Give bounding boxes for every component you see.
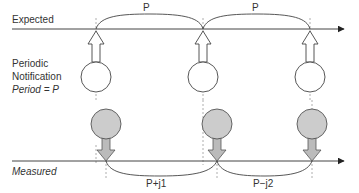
notification-up-arrows <box>88 31 318 62</box>
open-circle-icon <box>188 62 218 92</box>
open-circle-icon <box>295 62 325 92</box>
period-label-top-1: P <box>143 2 150 14</box>
filled-circle-icon <box>91 109 121 139</box>
notification-label-line2: Notification <box>12 71 61 83</box>
filled-circle-icon <box>297 109 327 139</box>
down-arrow-icon <box>208 138 226 161</box>
up-arrow-icon <box>195 31 211 62</box>
period-arc-bottom-2 <box>217 161 312 176</box>
up-arrow-icon <box>302 31 318 62</box>
open-circle-icon <box>81 62 111 92</box>
expected-notifications <box>81 62 325 92</box>
measured-down-arrows <box>97 138 321 161</box>
period-label-bottom-1: P+j1 <box>146 178 166 190</box>
measured-label: Measured <box>12 166 56 178</box>
period-definition: Period = P <box>12 84 59 96</box>
period-label-bottom-2: P−j2 <box>253 178 273 190</box>
up-arrow-icon <box>88 31 104 62</box>
timing-diagram <box>0 0 359 193</box>
period-arc-top-2 <box>203 14 310 29</box>
expected-label: Expected <box>12 14 54 26</box>
notification-label-line1: Periodic <box>12 58 48 70</box>
filled-circle-icon <box>202 109 232 139</box>
down-arrow-icon <box>97 138 115 161</box>
down-arrow-icon <box>303 138 321 161</box>
period-arc-bottom-1 <box>106 161 217 176</box>
period-arc-top-1 <box>96 14 203 29</box>
measured-notifications <box>91 109 327 139</box>
period-label-top-2: P <box>252 2 259 14</box>
